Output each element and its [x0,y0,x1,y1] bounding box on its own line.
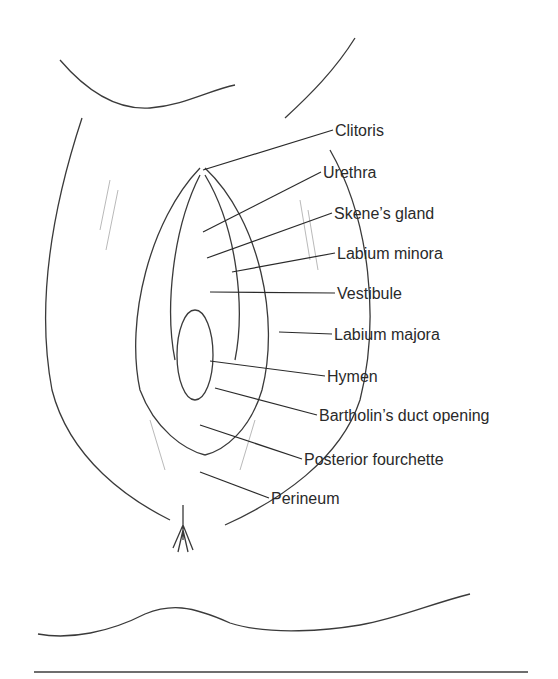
leader-labium-majora [279,332,332,334]
leader-skenes-gland [207,213,332,258]
leader-posterior-fourchette [200,425,302,459]
label-labium-minora: Labium minora [337,245,443,263]
label-hymen: Hymen [327,368,378,386]
label-posterior-fourchette: Posterior fourchette [304,451,444,469]
label-skenes-gland: Skene’s gland [334,205,434,223]
label-vestibule: Vestibule [337,285,402,303]
leader-labium-minora [232,253,335,272]
label-bartholins-duct-opening: Bartholin’s duct opening [319,407,490,425]
leader-perineum [200,472,269,498]
anatomy-diagram: Clitoris Urethra Skene’s gland Labium mi… [0,0,558,679]
leader-bartholins-duct [215,388,317,415]
leader-vestibule [210,292,335,293]
line-drawing [0,0,558,679]
label-urethra: Urethra [323,164,376,182]
label-clitoris: Clitoris [335,122,384,140]
leader-clitoris [203,130,333,170]
label-perineum: Perineum [271,490,339,508]
label-labium-majora: Labium majora [334,326,440,344]
